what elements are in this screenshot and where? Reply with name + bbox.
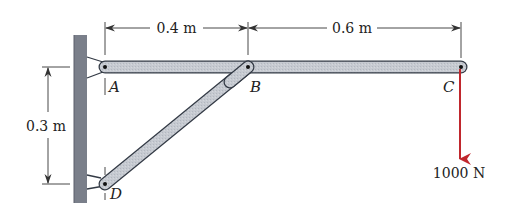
point-label-b: B — [249, 78, 261, 96]
dimension-ab: 0.4 m — [106, 20, 247, 36]
dimension-bc: 0.6 m — [249, 20, 460, 36]
point-label-a: A — [107, 78, 120, 96]
diagram-canvas: 0.4 m 0.6 m 0.3 m A B C D 1000 N — [0, 0, 511, 212]
pin-a — [103, 65, 107, 69]
force-label: 1000 N — [433, 165, 485, 181]
dimension-ab-label: 0.4 m — [157, 20, 197, 36]
wall — [74, 35, 87, 203]
point-label-d: D — [109, 185, 122, 203]
dimension-ad: 0.3 m — [26, 67, 70, 184]
pin-d — [103, 182, 107, 186]
pin-c — [459, 65, 463, 69]
dimension-ad-label: 0.3 m — [26, 118, 66, 134]
dimension-bc-label: 0.6 m — [332, 20, 372, 36]
point-label-c: C — [443, 78, 455, 96]
pin-b — [246, 65, 250, 69]
